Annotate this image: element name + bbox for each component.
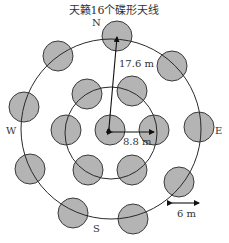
dish-diameter-label: 6 m [177,208,197,219]
outer-dish-antenna [184,112,214,142]
dish-antennas [9,21,214,234]
inner-dish-antenna [73,155,103,185]
west-label: W [6,125,17,136]
outer-dish-antenna [58,198,88,228]
outer-dish-antenna [118,204,148,234]
outer-radius-label: 17.6 m [119,58,154,69]
inner-dish-antenna [117,155,147,185]
diagram-title: 天籁16个碟形天线 [69,3,160,17]
inner-dish-antenna [117,76,147,106]
south-label: S [93,223,100,234]
antenna-array-diagram: 天籁16个碟形天线 17.6 m 8.8 m 6 m N S E W [0,0,229,243]
east-label: E [215,125,222,136]
inner-spacing-label: 8.8 m [123,136,152,147]
north-label: N [92,17,101,28]
outer-dish-antenna [164,167,194,197]
outer-dish-antenna [102,21,132,51]
outer-dish-antenna [157,51,187,81]
